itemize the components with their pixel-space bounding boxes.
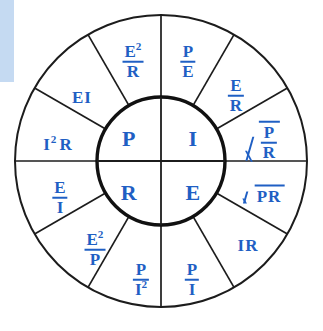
radicand: PR: [255, 185, 285, 205]
outer-formula-sqrt-pr: PR: [244, 185, 285, 208]
outer-formula-ir: IR: [238, 237, 259, 254]
exponent-two: 2: [98, 228, 104, 240]
outer-formula-e2-over-r: E2 R: [123, 43, 144, 82]
wheel-geometry: [0, 0, 323, 331]
denominator: R: [123, 63, 144, 82]
ei-text: EI: [72, 88, 92, 107]
fraction-p-over-i: P I: [185, 261, 199, 300]
r-text: R: [59, 135, 72, 154]
radical-pr: PR: [244, 185, 285, 205]
fraction-e2-over-r: E2 R: [123, 43, 144, 82]
inner-resistance-text: R: [121, 180, 137, 205]
exponent-two: 2: [142, 278, 148, 290]
radical-sign-icon: [244, 185, 255, 205]
radical-sign-icon: [248, 121, 259, 163]
outer-formula-i2r: I2R: [43, 136, 73, 153]
numerator: E: [228, 77, 244, 97]
outer-formula-e2-over-p: E2 P: [85, 231, 106, 270]
radical-p-over-r: P R: [248, 121, 280, 163]
numerator: P: [180, 43, 195, 63]
denominator: P: [85, 251, 106, 270]
denominator: I: [52, 199, 67, 218]
fraction-p-over-r: P R: [261, 124, 277, 163]
outer-formula-e-over-r: E R: [228, 77, 244, 116]
fraction-e-over-r: E R: [228, 77, 244, 116]
exponent-two: 2: [136, 40, 142, 52]
inner-label-power: P: [122, 128, 136, 150]
inner-power-text: P: [122, 126, 136, 151]
ohms-law-wheel: P I R E E2 R P E EI E R I2R: [0, 0, 323, 331]
i-text: I: [43, 135, 51, 154]
denominator: I: [185, 281, 199, 300]
inner-label-voltage: E: [185, 182, 200, 204]
outer-formula-e-over-i: E I: [52, 179, 67, 218]
numerator: P: [185, 261, 199, 281]
radicand: P R: [259, 121, 280, 163]
outer-formula-ei: EI: [72, 89, 92, 106]
ir-text: IR: [238, 236, 259, 255]
numerator: E: [52, 179, 67, 199]
outer-formula-p-over-e: P E: [180, 43, 195, 82]
outer-formula-sqrt-p-over-r: P R: [248, 121, 280, 166]
outer-formula-p-over-i: P I: [185, 261, 199, 300]
denominator: I2: [133, 281, 149, 300]
inner-label-resistance: R: [121, 182, 137, 204]
fraction-e-over-i: E I: [52, 179, 67, 218]
fraction-e2-over-p: E2 P: [85, 231, 106, 270]
denominator: R: [261, 144, 277, 163]
numerator: E2: [123, 43, 144, 63]
numerator: E2: [85, 231, 106, 251]
denominator: E: [180, 63, 195, 82]
denominator: R: [228, 97, 244, 116]
exponent-two: 2: [51, 133, 58, 145]
inner-label-current: I: [188, 128, 197, 150]
inner-voltage-text: E: [185, 180, 200, 205]
fraction-p-over-e: P E: [180, 43, 195, 82]
inner-current-text: I: [188, 126, 197, 151]
fraction-p-over-i2: P I2: [133, 261, 149, 300]
outer-formula-p-over-i2: P I2: [133, 261, 149, 300]
numerator: P: [261, 124, 277, 144]
